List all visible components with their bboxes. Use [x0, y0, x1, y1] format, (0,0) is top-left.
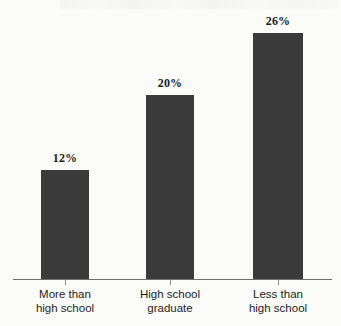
bar-less-than-high-school — [253, 33, 303, 279]
category-label-line2: graduate — [140, 301, 200, 315]
x-axis-baseline — [13, 279, 332, 280]
category-label-less-than-high-school: Less than high school — [249, 287, 307, 315]
axis-tick-less-than-high-school — [278, 280, 279, 285]
bar-group-more-than-high-school: 12% — [41, 0, 89, 279]
category-label-high-school-graduate: High school graduate — [140, 287, 200, 315]
bar-group-high-school-graduate: 20% — [146, 0, 194, 279]
category-label-line1: Less than — [249, 287, 307, 301]
category-label-line2: high school — [249, 301, 307, 315]
axis-tick-more-than-high-school — [65, 280, 66, 285]
category-label-more-than-high-school: More than high school — [36, 287, 94, 315]
axis-tick-high-school-graduate — [170, 280, 171, 285]
bar-value-label: 20% — [158, 76, 183, 91]
bar-group-less-than-high-school: 26% — [253, 0, 303, 279]
bar-more-than-high-school — [41, 170, 89, 279]
category-label-line1: More than — [36, 287, 94, 301]
category-label-line1: High school — [140, 287, 200, 301]
bar-chart-figure: 12% 20% 26% More than high school High s… — [0, 0, 341, 326]
bar-high-school-graduate — [146, 95, 194, 279]
plot-area: 12% 20% 26% — [0, 0, 341, 279]
category-label-line2: high school — [36, 301, 94, 315]
bar-value-label: 12% — [53, 151, 78, 166]
bar-value-label: 26% — [266, 14, 291, 29]
